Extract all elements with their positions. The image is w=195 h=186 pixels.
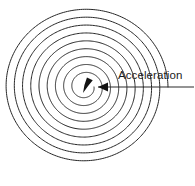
leader-arrowhead-icon: [98, 83, 108, 92]
spiral-diagram-canvas: [0, 0, 195, 186]
center-arrow-group: [83, 77, 93, 93]
leader-group: [98, 83, 194, 92]
acceleration-spiral-figure: Acceleration: [0, 0, 195, 186]
acceleration-label: Acceleration: [118, 69, 182, 82]
acceleration-vector-arrow-icon: [83, 77, 93, 93]
